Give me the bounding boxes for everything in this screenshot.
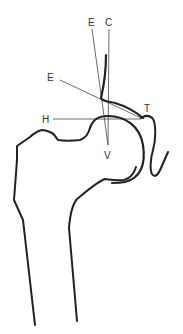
diagram-canvas [0, 0, 183, 334]
acetabular-rim [141, 116, 168, 176]
label-v: V [104, 151, 111, 161]
femur-medial-outline [69, 167, 136, 321]
line-vc [108, 29, 109, 145]
label-e-top: E [88, 18, 95, 28]
femur-diagram: E C E H T V [0, 0, 183, 334]
label-h: H [42, 115, 49, 125]
femoral-head [90, 116, 144, 183]
line-ve [92, 29, 108, 145]
label-t: T [144, 104, 150, 114]
femur-lateral-outline [14, 128, 90, 325]
acetabular-roof [101, 55, 143, 118]
label-c-top: C [105, 18, 112, 28]
label-e-left: E [47, 73, 54, 83]
